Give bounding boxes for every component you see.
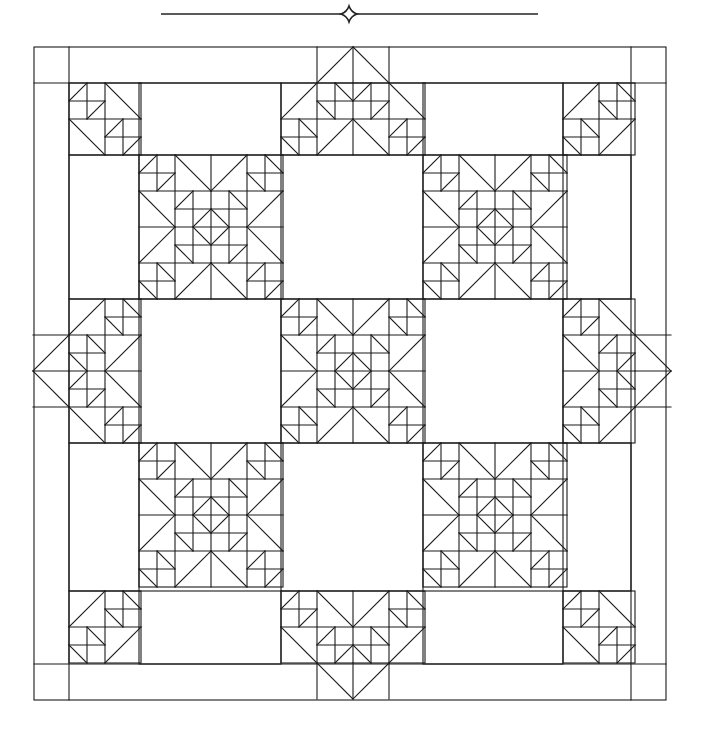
edge-right: [563, 299, 671, 443]
corner-bottom-right: [563, 591, 635, 663]
edge-top: [281, 47, 425, 155]
setting-square: [563, 155, 631, 299]
setting-square: [139, 299, 281, 443]
block-r3-c1: [139, 443, 283, 587]
block-r1-c1: [139, 155, 283, 299]
setting-square: [563, 443, 631, 591]
edge-bottom: [281, 591, 425, 699]
setting-square: [281, 155, 423, 299]
setting-square: [139, 591, 281, 664]
four-point-star-icon: [341, 6, 357, 22]
setting-square: [69, 443, 139, 591]
corner-top-left: [69, 83, 141, 155]
setting-square: [281, 443, 423, 591]
setting-square: [423, 299, 563, 443]
block-r3-c3: [423, 443, 567, 587]
block-r2-c2: [281, 299, 425, 443]
block-r1-c3: [423, 155, 567, 299]
corner-bottom-left: [69, 591, 141, 663]
setting-square: [69, 155, 139, 299]
setting-square: [423, 83, 563, 155]
quilt-blocks: [33, 47, 671, 699]
setting-square: [139, 83, 281, 155]
ornament-divider: [161, 6, 538, 22]
setting-squares: [69, 83, 631, 664]
corner-top-right: [563, 83, 635, 155]
setting-square: [423, 591, 563, 664]
edge-left: [33, 299, 141, 443]
quilt-diagram: [0, 0, 701, 734]
